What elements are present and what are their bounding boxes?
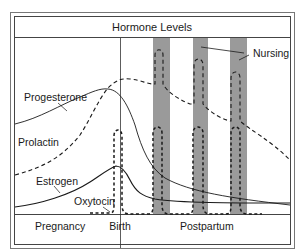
nursing-label: Nursing: [253, 47, 289, 59]
birth-label: Birth: [109, 220, 131, 232]
hormone-diagram: Hormone Levels Progesterone Prolactin Es…: [0, 0, 303, 252]
progesterone-label: Progesterone: [24, 91, 87, 103]
nursing-bars: [153, 38, 247, 214]
chart-title: Hormone Levels: [112, 21, 193, 33]
oxytocin-label: Oxytocin: [74, 195, 115, 207]
estrogen-pointer: [54, 186, 60, 193]
estrogen-label: Estrogen: [36, 175, 78, 187]
postpartum-label: Postpartum: [180, 220, 234, 232]
nursing-bar-2: [193, 38, 208, 214]
pregnancy-label: Pregnancy: [35, 220, 86, 232]
outer-frame: [11, 13, 295, 249]
oxytocin-pointer: [103, 207, 110, 212]
prolactin-label: Prolactin: [18, 136, 59, 148]
nursing-bar-3: [230, 38, 247, 214]
progesterone-pointer: [58, 103, 67, 111]
